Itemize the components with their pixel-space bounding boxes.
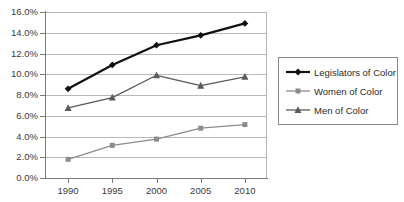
triangle-marker-icon <box>285 103 311 117</box>
chart-legend: Legislators of Color Women of Color Men … <box>278 57 398 125</box>
data-point-marker <box>153 42 160 49</box>
data-point-marker <box>109 94 116 101</box>
legend-label: Women of Color <box>311 86 382 97</box>
series-line <box>68 75 245 108</box>
series-line <box>68 23 245 88</box>
data-point-marker <box>197 32 204 39</box>
data-point-marker <box>66 157 71 162</box>
data-point-marker <box>198 126 203 131</box>
legend-item-men-of-color: Men of Color <box>285 101 368 119</box>
data-point-marker <box>242 20 249 27</box>
diamond-marker-icon <box>285 65 311 79</box>
square-marker-icon <box>285 84 311 98</box>
series-line <box>68 125 245 160</box>
data-point-marker <box>242 122 247 127</box>
legend-item-women-of-color: Women of Color <box>285 82 382 100</box>
legend-label: Men of Color <box>311 105 368 116</box>
legend-label: Legislators of Color <box>311 67 396 78</box>
data-point-marker <box>153 71 160 78</box>
legend-item-legislators-of-color: Legislators of Color <box>285 63 396 81</box>
data-point-marker <box>241 73 248 80</box>
data-point-marker <box>110 143 115 148</box>
series-men-of-color <box>65 71 249 110</box>
series-women-of-color <box>66 122 248 162</box>
data-point-marker <box>154 137 159 142</box>
line-chart: 0.0%2.0%4.0%6.0%8.0%10.0%12.0%14.0%16.0%… <box>0 0 404 202</box>
